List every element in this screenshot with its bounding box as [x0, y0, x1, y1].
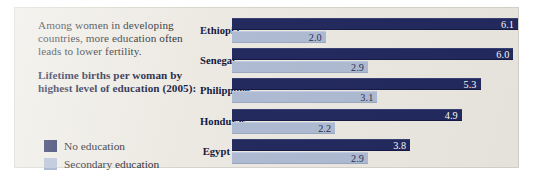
bar-no-education: 6.0 — [232, 48, 513, 60]
bar-group: Ethiopia6.12.0 — [200, 18, 518, 45]
category-label: Philippines — [200, 85, 230, 96]
bar-group: Senegal6.02.9 — [200, 48, 518, 75]
bar-no-education: 6.1 — [232, 18, 518, 30]
bar-value-label: 2.0 — [309, 32, 322, 43]
legend-item-no-education: No education — [44, 138, 214, 154]
bar-value-label: 2.9 — [351, 153, 364, 164]
bar-pair: 6.12.0 — [232, 18, 518, 45]
chart-legend: No education Secondary education — [44, 138, 214, 174]
bar-secondary-education: 2.0 — [232, 31, 326, 43]
category-label: Ethiopia — [200, 25, 230, 36]
bar-no-education: 5.3 — [232, 78, 481, 90]
bar-value-label: 4.9 — [445, 110, 458, 121]
category-label: Egypt — [200, 146, 230, 157]
category-label: Senegal — [200, 55, 230, 66]
legend-swatch-secondary-education — [44, 158, 57, 170]
bar-value-label: 3.1 — [360, 92, 373, 103]
bar-secondary-education: 2.2 — [232, 122, 335, 134]
bar-pair: 5.33.1 — [232, 78, 518, 105]
bar-value-label: 3.8 — [393, 140, 406, 151]
bar-group: Philippines5.33.1 — [200, 78, 518, 105]
bar-group: Egypt3.82.9 — [200, 139, 518, 166]
intro-text: Among women in developing countries, mor… — [38, 19, 198, 59]
bar-no-education: 3.8 — [232, 139, 410, 151]
category-label: Honduras — [200, 116, 230, 127]
bar-pair: 6.02.9 — [232, 48, 518, 75]
bar-secondary-education: 2.9 — [232, 61, 368, 73]
bar-value-label: 2.9 — [351, 62, 364, 73]
bar-group: Honduras4.92.2 — [200, 109, 518, 136]
caption-block: Among women in developing countries, mor… — [38, 19, 198, 96]
legend-item-secondary-education: Secondary education — [44, 156, 214, 172]
chart-subheading: Lifetime births per woman by highest lev… — [38, 69, 198, 96]
bar-value-label: 6.0 — [496, 49, 509, 60]
legend-label-no-education: No education — [64, 140, 125, 152]
bar-pair: 3.82.9 — [232, 139, 518, 166]
bar-secondary-education: 3.1 — [232, 91, 377, 103]
fertility-education-figure: Among women in developing countries, mor… — [0, 0, 533, 184]
bar-pair: 4.92.2 — [232, 109, 518, 136]
bar-value-label: 5.3 — [464, 79, 477, 90]
bar-value-label: 2.2 — [318, 123, 331, 134]
bar-secondary-education: 2.9 — [232, 152, 368, 164]
legend-swatch-no-education — [44, 140, 57, 152]
bar-value-label: 6.1 — [501, 19, 514, 30]
bar-chart: Ethiopia6.12.0Senegal6.02.9Philippines5.… — [200, 18, 518, 170]
chart-panel: Among women in developing countries, mor… — [14, 7, 519, 168]
bar-no-education: 4.9 — [232, 109, 462, 121]
legend-label-secondary-education: Secondary education — [64, 158, 159, 170]
